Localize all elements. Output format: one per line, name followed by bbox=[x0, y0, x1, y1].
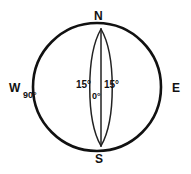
meridian-arc-west bbox=[90, 29, 101, 146]
label-longitude-15-west: 15° bbox=[76, 80, 91, 90]
label-east: E bbox=[172, 82, 180, 94]
globe-circle bbox=[33, 23, 161, 151]
label-south: S bbox=[95, 153, 103, 165]
label-longitude-15-east: 15° bbox=[104, 80, 119, 90]
label-west: W bbox=[9, 82, 20, 94]
label-longitude-0: 0° bbox=[92, 92, 101, 101]
label-north: N bbox=[94, 10, 103, 22]
diagram-canvas: N S W E 90° 15° 15° 0° bbox=[0, 0, 191, 174]
label-longitude-90: 90° bbox=[23, 91, 37, 100]
globe-diagram bbox=[0, 0, 191, 174]
